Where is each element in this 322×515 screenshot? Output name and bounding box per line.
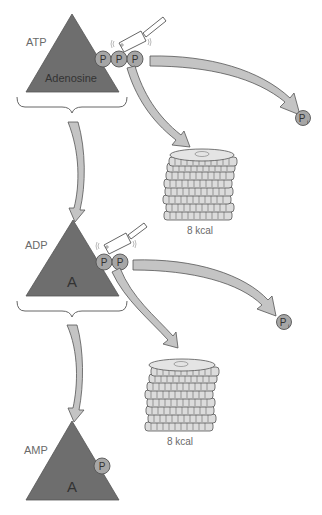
svg-text:P: P [101,257,108,268]
brace [17,97,127,113]
svg-text:i: i [288,323,289,329]
arrow-adp-to-amp [67,325,84,422]
svg-text:i: i [307,119,308,125]
svg-text:P: P [280,317,287,328]
adp-label: ADP [25,239,48,251]
atp-label: ATP [26,36,47,48]
inorganic-phosphate-2: P i [277,315,292,330]
amp-label: AMP [24,444,48,456]
adenosine-label: A [67,478,77,495]
energy-label-2: 8 kcal [167,436,193,447]
arrow-atp-to-adp [68,122,85,222]
cleaver-icon [96,223,147,254]
phosphate-2: P [111,51,127,67]
energy-coin-stack-2: 8 kcal [145,359,219,447]
arrow-to-energy-2 [112,268,178,348]
adp-molecule: ADP A P P [17,220,147,317]
adenosine-label: Adenosine [45,72,97,84]
energy-label-1: 8 kcal [187,225,213,236]
svg-text:P: P [117,257,124,268]
svg-text:P: P [116,54,123,65]
brace [17,301,127,317]
arrow-to-pi-1 [150,56,300,115]
svg-text:P: P [100,54,107,65]
svg-text:P: P [299,113,306,124]
inorganic-phosphate-1: P i [296,111,311,126]
phosphate-1: P [95,51,111,67]
svg-text:P: P [132,54,139,65]
arrow-to-pi-2 [133,260,276,316]
arrow-to-energy-1 [127,66,190,147]
energy-coin-stack-1: 8 kcal [163,149,237,236]
phosphate-1: P [94,458,110,474]
phosphate-3: P [127,51,143,67]
amp-molecule: AMP A P [24,421,119,500]
phosphate-1: P [96,254,112,270]
adenosine-label: A [67,273,77,290]
svg-text:P: P [99,461,106,472]
cleaver-icon [111,17,166,52]
